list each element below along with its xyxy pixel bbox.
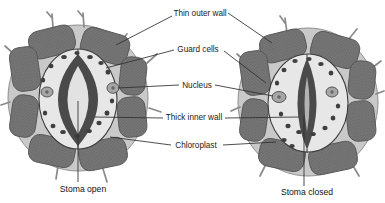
chloroplast [106,69,111,74]
stoma-open-diagram [1,11,161,182]
chloroplast [282,68,287,72]
cell-junction-spike [149,108,161,112]
nucleolus [330,90,333,93]
chloroplast [105,110,110,115]
chloroplast [292,59,297,63]
chloroplast [43,111,47,116]
leader-thin-outer-wall-right [228,13,272,43]
chloroplast [51,124,56,128]
label-stoma-closed: Stoma closed [281,187,333,197]
label-stoma-open: Stoma open [60,184,107,194]
label-thick-inner-wall: Thick inner wall [166,113,223,122]
chloroplast [74,51,79,55]
chloroplast [279,112,283,117]
chloroplast [336,104,340,109]
chloroplast [60,130,66,134]
stomata-figure: Thin outer wall Guard cells Nucleus Thic… [0,0,385,203]
nucleolus [45,90,48,93]
chloroplast [98,61,103,65]
cell-junction-spike [47,12,53,28]
chloroplast [289,144,294,148]
chloroplast [74,134,80,138]
chloroplast [318,62,323,66]
stoma-closed-diagram [231,16,384,177]
epidermal-cell [238,49,272,96]
nucleolus [277,95,281,99]
epidermal-cell [347,60,377,101]
chloroplast [306,57,311,61]
cell-junction-spike [147,54,157,63]
cell-junction-spike [103,169,107,182]
chloroplast [310,132,316,136]
chloroplast [41,78,45,83]
label-nucleus: Nucleus [182,81,212,90]
stomata-diagram-canvas: Thin outer wall Guard cells Nucleus Thic… [0,0,385,203]
leader-thin-outer-wall-left [116,16,172,45]
label-thin-outer-wall: Thin outer wall [173,9,226,18]
chloroplast [281,138,286,142]
epidermal-cell [345,100,377,143]
chloroplast [296,130,302,134]
chloroplast [87,55,93,59]
chloroplast [329,71,334,76]
label-guard-cells: Guard cells [177,45,218,54]
chloroplast [61,55,67,59]
chloroplast [331,116,336,121]
chloroplast [49,64,54,68]
label-chloroplast: Chloroplast [175,141,217,150]
chloroplast [96,121,101,125]
chloroplast [285,124,290,128]
chloroplast [275,81,279,86]
epidermal-cell [8,45,42,92]
chloroplast [86,129,92,133]
chloroplast [110,99,114,104]
epidermal-cell [118,56,148,97]
nucleolus [111,86,114,89]
chloroplast [322,126,327,130]
